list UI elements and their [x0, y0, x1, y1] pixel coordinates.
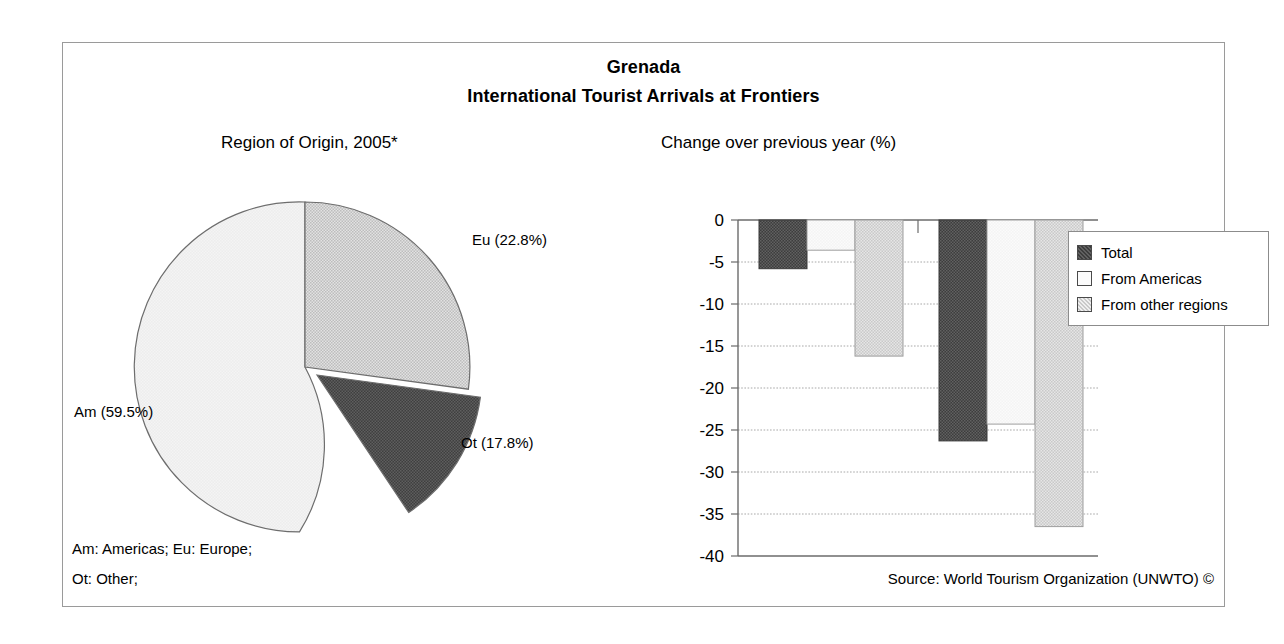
bar-chart-legend: Total From Americas From other regions	[1068, 231, 1269, 326]
y-tick-marks	[731, 220, 738, 556]
svg-text:-5: -5	[709, 253, 724, 272]
legend-label-from-other-regions: From other regions	[1101, 296, 1228, 313]
legend-label-from-americas: From Americas	[1101, 270, 1202, 287]
legend-label-total: Total	[1101, 244, 1133, 261]
pie-chart-svg	[73, 153, 633, 533]
bar-2005-2004-from-americas	[987, 220, 1035, 424]
bar-chart-panel: 0 -5 -10 -15 -20 -25 -30 -35 -40	[658, 153, 1218, 563]
svg-text:-20: -20	[699, 379, 724, 398]
figure-frame: Grenada International Tourist Arrivals a…	[62, 42, 1225, 607]
bar-2004-2003-total	[759, 220, 807, 269]
svg-text:-25: -25	[699, 421, 724, 440]
svg-text:-30: -30	[699, 463, 724, 482]
pie-label-europe: Eu (22.8%)	[472, 231, 547, 248]
pie-label-other: Ot (17.8%)	[461, 434, 534, 451]
bar-2005-2004-total	[939, 220, 987, 441]
page-title: Grenada	[63, 57, 1224, 78]
legend-swatch-from-americas	[1077, 271, 1092, 286]
pie-slice-eu	[305, 202, 470, 389]
bar-2004-2003-from-other-regions	[855, 220, 903, 356]
pie-chart-panel: Eu (22.8%) Am (59.5%) Ot (17.8%)	[73, 153, 633, 533]
svg-text:0: 0	[715, 211, 724, 230]
svg-text:-15: -15	[699, 337, 724, 356]
legend-item-from-other-regions[interactable]: From other regions	[1077, 291, 1260, 317]
page-subtitle: International Tourist Arrivals at Fronti…	[63, 86, 1224, 107]
pie-label-americas: Am (59.5%)	[74, 403, 153, 420]
abbreviation-note-line-1: Am: Americas; Eu: Europe;	[72, 540, 252, 557]
source-note: Source: World Tourism Organization (UNWT…	[888, 570, 1214, 587]
bar-2004-2003-from-americas	[807, 220, 855, 250]
svg-text:-10: -10	[699, 295, 724, 314]
bar-chart-svg: 0 -5 -10 -15 -20 -25 -30 -35 -40	[658, 153, 1218, 563]
pie-slice-ot	[317, 375, 480, 513]
svg-text:-40: -40	[699, 547, 724, 563]
abbreviation-note-line-2: Ot: Other;	[72, 570, 138, 587]
pie-chart-title: Region of Origin, 2005*	[221, 133, 398, 153]
legend-item-from-americas[interactable]: From Americas	[1077, 265, 1260, 291]
legend-swatch-from-other-regions	[1077, 297, 1092, 312]
pie-slice-am	[134, 202, 324, 532]
legend-item-total[interactable]: Total	[1077, 239, 1260, 265]
legend-swatch-total	[1077, 245, 1092, 260]
svg-text:-35: -35	[699, 505, 724, 524]
bar-chart-title: Change over previous year (%)	[661, 133, 896, 153]
y-tick-labels: 0 -5 -10 -15 -20 -25 -30 -35 -40	[699, 211, 724, 563]
